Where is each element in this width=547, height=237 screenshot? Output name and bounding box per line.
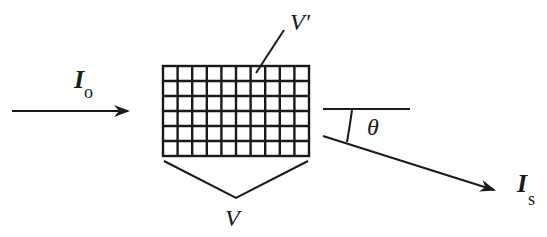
volume-bracket-line [164,161,308,198]
scattered-subscript: s [528,189,535,209]
scattered-label: I [516,169,528,198]
scattered-arrow [323,136,494,190]
volume-grid [163,66,309,156]
volume-bracket: V [164,161,308,231]
scattered-beam: I s [323,136,535,209]
volume-label: V [225,205,242,231]
subvolume-annotation: V′ [256,9,311,73]
scattering-diagram: I o V′ V θ I s [0,0,547,237]
angle-label: θ [367,114,379,140]
subvolume-label: V′ [290,9,311,35]
incident-subscript: o [84,82,93,102]
angle-arc [347,110,352,142]
scattering-angle: θ [323,109,410,142]
incident-beam: I o [12,65,128,111]
